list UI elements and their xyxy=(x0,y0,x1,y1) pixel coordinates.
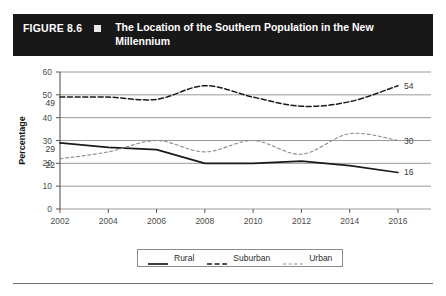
legend-swatch-urban xyxy=(283,254,303,262)
y-tick-label: 40 xyxy=(43,113,53,123)
y-axis-title-text: Percentage xyxy=(17,116,27,165)
figure-number: FIGURE 8.6 xyxy=(23,21,82,34)
start-value-label-urban: 22 xyxy=(46,160,56,170)
end-value-label-rural: 16 xyxy=(404,167,414,177)
chart-legend: RuralSuburbanUrban xyxy=(137,249,343,267)
line-chart: 0102030405060 20022004200620082010201220… xyxy=(13,62,433,234)
x-tick-label: 2016 xyxy=(389,216,408,226)
x-tick-label: 2002 xyxy=(51,216,70,226)
y-tick-label: 10 xyxy=(43,181,53,191)
x-tick-label: 2008 xyxy=(195,216,214,226)
y-axis-title: Percentage xyxy=(17,116,27,165)
figure-title: The Location of the Southern Population … xyxy=(115,21,415,48)
y-tick-label: 0 xyxy=(47,204,52,214)
gridlines xyxy=(60,72,431,209)
figure-container: FIGURE 8.6 The Location of the Southern … xyxy=(0,0,446,296)
legend-label: Urban xyxy=(309,253,332,263)
legend-item-rural: Rural xyxy=(148,253,194,263)
figure-header: FIGURE 8.6 The Location of the Southern … xyxy=(13,14,433,56)
legend-item-suburban: Suburban xyxy=(207,253,270,263)
series-line-rural xyxy=(60,143,398,173)
x-axis: 20022004200620082010201220142016 xyxy=(51,209,408,226)
series-line-urban xyxy=(60,133,398,159)
y-axis: 0102030405060 xyxy=(43,67,60,214)
x-tick-label: 2012 xyxy=(292,216,311,226)
square-bullet-icon xyxy=(94,25,101,32)
start-value-label-suburban: 49 xyxy=(46,98,56,108)
bottom-divider xyxy=(13,283,433,284)
legend-item-urban: Urban xyxy=(283,253,332,263)
legend-label: Suburban xyxy=(233,253,270,263)
x-tick-label: 2004 xyxy=(99,216,118,226)
x-tick-label: 2014 xyxy=(340,216,359,226)
legend-swatch-suburban xyxy=(207,254,227,262)
end-value-label-suburban: 54 xyxy=(404,81,414,91)
series-line-suburban xyxy=(60,86,398,107)
start-value-label-rural: 29 xyxy=(46,144,56,154)
chart-svg: 0102030405060 20022004200620082010201220… xyxy=(13,62,433,234)
series-layer xyxy=(60,86,398,173)
legend-label: Rural xyxy=(174,253,194,263)
legend-swatch-rural xyxy=(148,254,168,262)
x-tick-label: 2006 xyxy=(147,216,166,226)
y-tick-label: 60 xyxy=(43,67,53,77)
end-value-label-urban: 30 xyxy=(404,136,414,146)
x-tick-label: 2010 xyxy=(244,216,263,226)
